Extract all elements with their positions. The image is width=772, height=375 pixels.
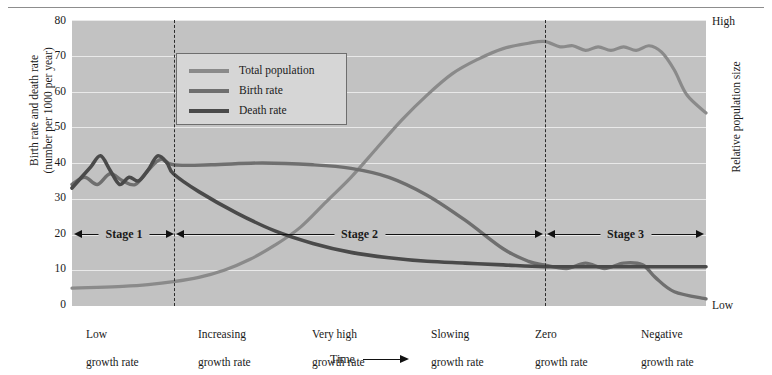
phase-4-line1: Slowing [431,327,484,341]
phase-4-line2: growth rate [431,355,484,369]
y-axis-title-left-line2: (number per 1000 per year) [41,15,55,205]
chart-legend: Total population Birth rate Death rate [176,53,347,125]
phase-5-line2: growth rate [535,355,588,369]
stage-2-arrow-right [535,230,543,238]
legend-label-death-rate: Death rate [239,105,287,117]
stage-3-label: Stage 3 [600,226,651,242]
legend-swatch-death-rate [189,109,229,113]
top-divider-rule [8,7,764,8]
y-axis-right-high: High [712,16,735,28]
x-axis-label-text: Time [330,352,355,367]
phase-6-line1: Negative [641,327,694,341]
phase-caption-increasing-growth: Increasing growth rate [198,313,251,375]
curve-death-rate [72,156,706,267]
phase-caption-negative-growth: Negative growth rate [641,313,694,375]
phase-1-line1: Low [86,327,139,341]
stage-3-arrow-right [696,230,704,238]
y-axis-title-left: Birth rate and death rate (number per 10… [27,15,56,205]
stage-band-1: Stage 1 [74,227,174,243]
legend-item-total-population: Total population [177,61,346,81]
phase-caption-zero-growth: Zero growth rate [535,313,588,375]
y-axis-right-low: Low [712,300,733,312]
chart-curves [72,20,706,306]
x-axis-arrow-icon [363,355,409,365]
stage-1-arrow-right [166,230,174,238]
legend-swatch-birth-rate [189,89,229,93]
legend-item-birth-rate: Birth rate [177,81,346,101]
y-tick-20: 20 [40,228,66,240]
legend-label-total-population: Total population [239,65,315,77]
stage-divider-2 [545,20,546,306]
phase-caption-low-growth: Low growth rate [86,313,139,375]
y-axis-title-left-line1: Birth rate and death rate [27,15,41,205]
phase-3-line1: Very high [312,327,365,341]
phase-5-line1: Zero [535,327,588,341]
y-tick-10: 10 [40,263,66,275]
x-axis-label: Time [330,352,409,367]
stage-2-label: Stage 2 [334,226,385,242]
stage-divider-1 [174,20,175,306]
y-axis-title-right: Relative population size [730,32,744,202]
legend-label-birth-rate: Birth rate [239,85,283,97]
phase-6-line2: growth rate [641,355,694,369]
chart-plot-area: Stage 1 Stage 2 Stage 3 Total population… [72,20,706,306]
phase-1-line2: growth rate [86,355,139,369]
stage-band-3: Stage 3 [547,227,704,243]
legend-swatch-total-population [189,69,229,73]
phase-2-line2: growth rate [198,355,251,369]
phase-caption-slowing-growth: Slowing growth rate [431,313,484,375]
stage-band-2: Stage 2 [176,227,543,243]
y-tick-0: 0 [40,299,66,311]
stage-1-label: Stage 1 [99,226,150,242]
legend-item-death-rate: Death rate [177,101,346,121]
phase-2-line1: Increasing [198,327,251,341]
